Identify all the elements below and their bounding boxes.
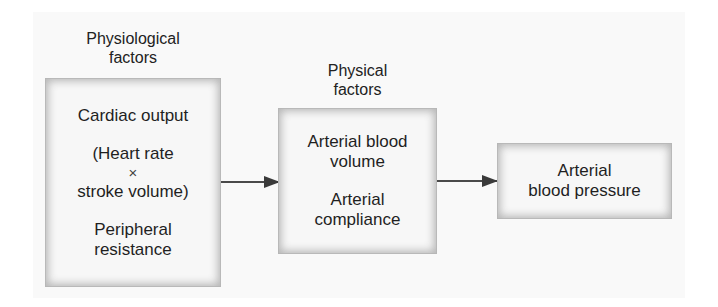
physical-factors-box: Arterial blood volume Arterial complianc… [278,108,437,254]
cardiac-output-label: Cardiac output [78,106,189,126]
multiply-symbol: × [129,164,138,182]
arterial-blood-label: Arterial blood [307,132,407,152]
arrow-right-icon [221,181,279,183]
physiological-factors-box: Cardiac output (Heart rate × stroke volu… [45,78,221,287]
heading-line: Physiological [45,29,221,48]
peripheral-label: Peripheral [94,220,172,240]
compliance-label: compliance [315,210,401,230]
resistance-label: resistance [94,240,171,260]
arterial-blood-pressure-box: Arterial blood pressure [497,143,672,219]
arrowhead-icon [482,175,498,187]
physiological-factors-heading: Physiological factors [45,29,221,67]
arrow-right-icon [437,180,497,182]
arterial-label: Arterial [558,161,612,181]
volume-label: volume [330,152,385,172]
blood-pressure-label: blood pressure [528,181,640,201]
physical-factors-heading: Physical factors [278,61,437,99]
stroke-volume-label: stroke volume) [77,182,188,202]
heading-line: Physical [278,61,437,80]
heading-line: factors [45,48,221,67]
heart-rate-label: (Heart rate [92,144,173,164]
heading-line: factors [278,80,437,99]
arterial-label: Arterial [331,190,385,210]
